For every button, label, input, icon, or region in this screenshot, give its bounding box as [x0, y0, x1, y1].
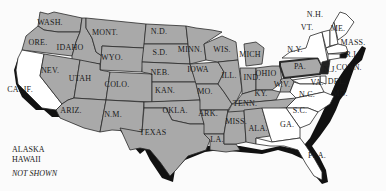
state-label: GA.	[280, 120, 294, 129]
state-label: MASS.	[341, 38, 366, 47]
state-label: ARK.	[198, 109, 218, 118]
state-connecticut[interactable]	[328, 54, 340, 60]
state-arizona[interactable]	[56, 98, 106, 132]
state-label: IOWA	[187, 65, 209, 74]
state-label: TENN.	[233, 99, 257, 108]
state-label: KAN.	[155, 86, 175, 95]
state-label: ILL.	[221, 71, 236, 80]
state-label: MONT.	[92, 28, 118, 37]
state-label: R.I.	[346, 50, 359, 59]
state-label: OKLA.	[162, 106, 187, 115]
note-alaska: ALASKA	[12, 145, 57, 155]
state-label: ALA.	[248, 124, 267, 133]
state-label: VT.	[301, 23, 314, 32]
state-label: S.D.	[152, 48, 167, 57]
state-label: CALIF.	[7, 85, 33, 94]
state-label: DEL.	[328, 77, 346, 86]
state-label: CONN.	[336, 63, 362, 72]
state-label: OHIO	[256, 69, 277, 78]
us-map: WASH.ORE.CALIF.IDAHONEV.MONT.WYO.UTAHARI…	[0, 0, 386, 191]
state-label: TEXAS	[140, 128, 167, 137]
state-label: W.V.	[274, 80, 290, 89]
state-label: KY.	[254, 89, 267, 98]
state-label: N.H.	[307, 10, 323, 19]
state-label: MO.	[197, 87, 213, 96]
state-label: PA.	[294, 62, 306, 71]
not-shown-note: ALASKA HAWAII NOT SHOWN	[12, 145, 57, 179]
state-label: ME.	[331, 24, 346, 33]
state-label: N.M.	[104, 110, 122, 119]
state-label: NEB.	[151, 68, 170, 77]
state-label: WYO.	[101, 53, 123, 62]
note-hawaii: HAWAII	[12, 155, 57, 165]
state-label: N.Y.	[287, 45, 302, 54]
state-label: LA.	[210, 135, 223, 144]
state-label: N.C.	[299, 90, 315, 99]
state-label: MISS.	[225, 117, 247, 126]
state-mississippi[interactable]	[224, 110, 246, 144]
state-label: IDAHO	[57, 43, 84, 52]
state-label: UTAH	[69, 74, 91, 83]
state-label: MICH	[239, 50, 261, 59]
state-label: COLO.	[105, 80, 130, 89]
state-label: MD.	[332, 89, 348, 98]
state-label: ORE.	[29, 38, 48, 47]
state-label: S.C.	[293, 106, 308, 115]
state-label: WIS.	[213, 45, 230, 54]
note-not-shown: NOT SHOWN	[12, 169, 57, 179]
state-label: MINN.	[178, 45, 202, 54]
state-label: ARIZ.	[60, 106, 82, 115]
state-label: FLA.	[308, 151, 326, 160]
state-label: WASH.	[37, 18, 63, 27]
state-label: N.D.	[151, 27, 167, 36]
state-label: VA.	[310, 78, 323, 87]
state-label: NEV.	[41, 66, 59, 75]
state-label: N.J.	[323, 65, 337, 74]
